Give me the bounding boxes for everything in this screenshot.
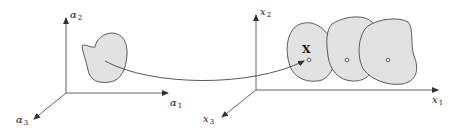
- x3-label: x3: [203, 114, 214, 126]
- diagram-canvas: α2 α1 α3 x2 x1 x3 X: [0, 0, 454, 128]
- parameter-region: [82, 33, 127, 83]
- alpha3-axis: [34, 93, 66, 119]
- region-2-center-marker: [345, 58, 349, 62]
- diagram-svg: [0, 0, 454, 128]
- point-x-label: X: [302, 44, 311, 55]
- alpha2-label: α2: [70, 10, 82, 22]
- alpha1-label: α1: [170, 98, 182, 110]
- region-3-center-marker: [386, 58, 390, 62]
- alpha3-label: α3: [16, 115, 28, 127]
- mapping-arrow: [105, 61, 304, 81]
- x3-axis: [222, 90, 256, 117]
- x2-label: x2: [260, 7, 271, 19]
- x1-label: x1: [432, 95, 443, 107]
- point-x-marker: [307, 58, 311, 62]
